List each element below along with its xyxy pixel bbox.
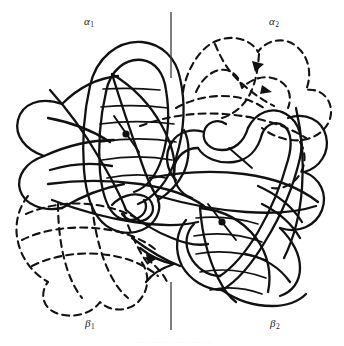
topology-diagram xyxy=(0,0,344,346)
orientation-arrow-alpha2-upper xyxy=(229,148,252,168)
label-beta2-base: β xyxy=(270,317,276,329)
hatch-line xyxy=(100,122,174,124)
label-beta1-base: β xyxy=(85,317,91,329)
dashed-curve-beta2-outer xyxy=(183,38,331,140)
surface-bottom-right xyxy=(222,290,306,306)
label-beta2: β2 xyxy=(270,317,280,331)
surface-outline-left-upper xyxy=(17,101,62,156)
hatch-line xyxy=(103,88,160,90)
label-beta1-sub: 1 xyxy=(91,322,95,331)
hatch-line xyxy=(210,288,262,294)
label-alpha1: α1 xyxy=(84,15,94,29)
dashed-curve-beta1-mid3 xyxy=(32,254,158,277)
arrow-node xyxy=(123,131,128,136)
surface-bottom-mid xyxy=(132,238,180,266)
alpha1-tube-inner xyxy=(106,60,168,192)
surface-bottom-notch xyxy=(140,248,174,282)
caption-strip: · ·· ··· · ·· ···· ·· ··· · ·· ··· ·· xyxy=(0,339,344,346)
dashed-curve-beta2-tail xyxy=(176,96,264,108)
label-alpha2-sub: 2 xyxy=(275,20,279,29)
hatch-line xyxy=(101,106,168,108)
label-alpha2: α2 xyxy=(269,15,279,29)
dashed-curve-beta1-rib-a xyxy=(58,204,82,298)
surface-flap-inner-a xyxy=(44,140,114,156)
label-alpha1-sub: 1 xyxy=(90,20,94,29)
arrow-shaft xyxy=(229,148,252,168)
label-beta1: β1 xyxy=(85,317,95,331)
arrow-node xyxy=(219,219,224,224)
figure-root: α1 α2 β1 β2 · ·· ··· · ·· ···· ·· ··· · … xyxy=(0,0,344,346)
alpha2-tube-left xyxy=(177,220,222,290)
surface-outline-right-upper xyxy=(288,116,327,172)
alpha2-hook-outer xyxy=(204,121,248,150)
surface-outline-right-flap xyxy=(280,228,300,296)
hatch-line xyxy=(196,217,258,224)
label-beta2-sub: 2 xyxy=(276,322,280,331)
alpha1-tube-left-wall-inner xyxy=(99,92,114,214)
dashed-curve-beta2-inner xyxy=(196,70,290,108)
